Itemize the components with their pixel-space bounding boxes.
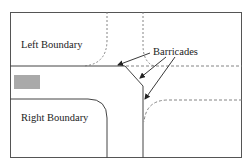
barricade-arrow-1 bbox=[118, 53, 150, 65]
dashed-curve-left-turn bbox=[84, 12, 107, 66]
vehicle-block bbox=[14, 75, 40, 89]
left-boundary-label: Left Boundary bbox=[21, 39, 83, 50]
right-boundary-edge bbox=[10, 99, 107, 158]
diagram-frame bbox=[11, 13, 242, 158]
right-boundary-label: Right Boundary bbox=[21, 112, 89, 123]
intersection-diagram: Left Boundary Right Boundary Barricades bbox=[0, 0, 249, 165]
dashed-curve-lower-right bbox=[144, 100, 242, 122]
barricades-label: Barricades bbox=[153, 46, 198, 57]
barricade-edge bbox=[125, 66, 143, 158]
dashed-curve-upper-right bbox=[143, 12, 154, 66]
